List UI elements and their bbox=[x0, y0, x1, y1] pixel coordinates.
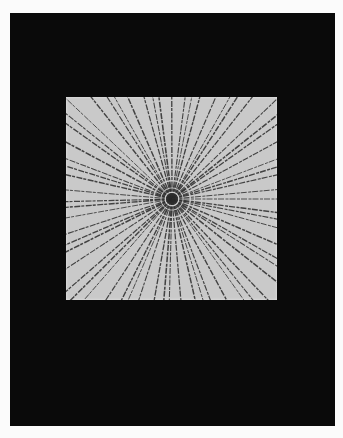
radial-line-artwork bbox=[66, 97, 277, 300]
radiating-lines bbox=[66, 97, 277, 300]
